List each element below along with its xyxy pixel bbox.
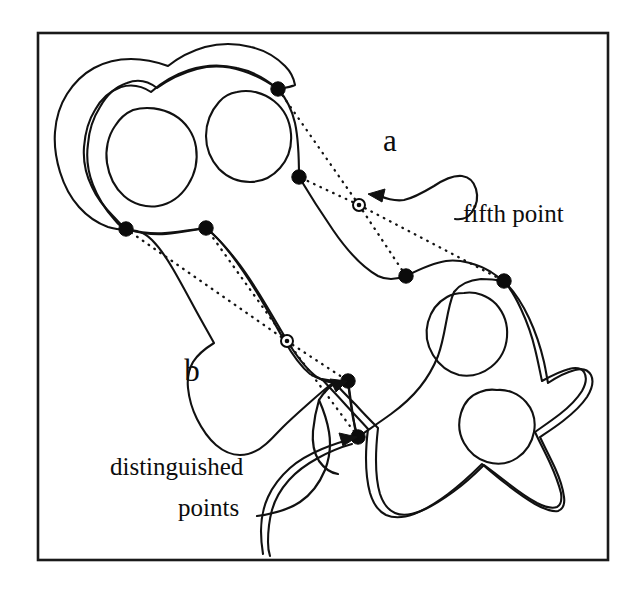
region-label-b: b	[184, 353, 200, 388]
figure-frame	[38, 33, 608, 560]
chord-a-to-point3	[359, 205, 406, 276]
hole-lower-middle	[427, 293, 508, 376]
distinguished-point-a2	[292, 170, 306, 184]
distinguished-point-a1	[271, 82, 285, 96]
hole-lower-right	[459, 390, 534, 464]
chord-b-to-point3	[287, 341, 348, 381]
fifth-point-label: fifth point	[463, 200, 564, 227]
chord-b-to-point1	[126, 229, 287, 341]
figure-root: a b fifth point distinguished points	[0, 0, 643, 593]
distinguished-points-leader-branch-upper	[313, 400, 338, 474]
chord-b-to-point2	[206, 228, 287, 341]
diagram-canvas: a b fifth point distinguished points	[0, 0, 643, 593]
region-b-skirt-inner-edge	[268, 444, 352, 556]
distinguished-point-b2	[199, 221, 213, 235]
region-label-a: a	[383, 123, 397, 158]
distinguished-point-b1	[119, 222, 133, 236]
fifth-point-b-marker	[281, 335, 293, 347]
distinguished-point-a3	[399, 269, 413, 283]
distinguished-point-a4	[497, 274, 511, 288]
fifth-point-leader-arrowhead	[368, 189, 385, 202]
hole-upper-right	[206, 91, 291, 182]
hole-upper-left	[106, 108, 196, 207]
distinguished-points-label-line2: points	[178, 494, 239, 521]
distinguished-points-label-line1: distinguished	[110, 453, 244, 480]
fifth-point-a-marker	[353, 199, 365, 211]
